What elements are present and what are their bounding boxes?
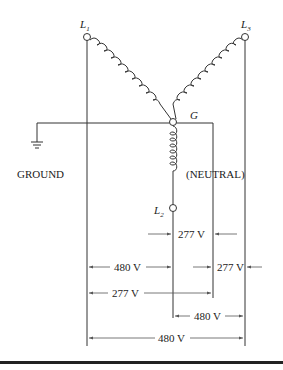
wye-transformer-diagram: L1 L3 L2 G GROUND (NEUTRAL) 277 V 480 V …: [0, 0, 283, 370]
l1-label: L1: [79, 18, 90, 33]
dim-l2-neutral: 277 V: [148, 228, 237, 240]
dim-l2-l3: 480 V: [175, 310, 243, 322]
svg-text:277 V: 277 V: [217, 261, 244, 273]
l3-terminal: [242, 34, 249, 41]
g-label: G: [190, 109, 198, 121]
svg-text:277 V: 277 V: [178, 228, 205, 240]
l1-terminal: [84, 34, 91, 41]
l3-label: L3: [240, 18, 251, 33]
svg-text:277 V: 277 V: [112, 287, 139, 299]
bottom-rule: [0, 361, 283, 364]
neutral-label: (NEUTRAL): [186, 168, 245, 181]
svg-text:480 V: 480 V: [194, 310, 221, 322]
l2-winding-coil: [170, 126, 177, 205]
g-neutral-node: [170, 119, 177, 126]
l1-winding-coil: [90, 38, 171, 119]
svg-text:480 V: 480 V: [158, 332, 185, 344]
dim-l1-neutral: 277 V: [89, 287, 211, 299]
dim-neutral-l3: 277 V: [193, 261, 262, 273]
dim-l1-l3: 480 V: [89, 332, 243, 344]
dim-l1-l2: 480 V: [89, 261, 171, 273]
ground-icon: [31, 142, 43, 148]
l2-terminal: [170, 205, 177, 212]
l3-winding-coil: [173, 38, 243, 119]
svg-text:480 V: 480 V: [114, 261, 141, 273]
ground-label: GROUND: [17, 168, 64, 180]
l2-label: L2: [153, 204, 164, 219]
